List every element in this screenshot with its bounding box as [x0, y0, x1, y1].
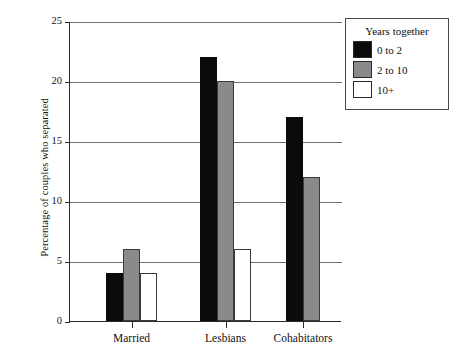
legend-swatch-2-to-10	[353, 61, 372, 78]
y-tick-mark	[65, 202, 70, 203]
x-tick-mark	[132, 322, 133, 328]
y-tick-label: 25	[2, 15, 62, 26]
bar	[106, 273, 123, 321]
bar	[303, 177, 320, 321]
bar	[200, 57, 217, 321]
legend-label-0-to-2: 0 to 2	[377, 44, 402, 56]
legend-title: Years together	[353, 25, 441, 37]
y-tick-mark	[65, 322, 70, 323]
y-tick-mark	[65, 22, 70, 23]
y-tick-label: 15	[2, 135, 62, 146]
legend-item: 2 to 10	[353, 61, 441, 78]
legend-item: 10+	[353, 81, 441, 98]
x-tick-label: Cohabitators	[233, 332, 373, 344]
bar	[140, 273, 157, 321]
legend-swatch-0-to-2	[353, 41, 372, 58]
bar	[234, 249, 251, 321]
chart-legend: Years together 0 to 2 2 to 10 10+	[345, 18, 449, 110]
y-tick-mark	[65, 262, 70, 263]
y-tick-label: 5	[2, 255, 62, 266]
legend-label-2-to-10: 2 to 10	[377, 64, 408, 76]
legend-label-10-plus: 10+	[377, 84, 394, 96]
y-tick-mark	[65, 142, 70, 143]
bar	[286, 117, 303, 321]
bar	[123, 249, 140, 321]
bar-chart-figure: Percentage of couples who separated 0510…	[0, 0, 457, 360]
y-tick-mark	[65, 82, 70, 83]
bar	[217, 81, 234, 321]
y-tick-label: 10	[2, 195, 62, 206]
y-tick-label: 20	[2, 75, 62, 86]
x-tick-mark	[303, 322, 304, 328]
gridline	[70, 22, 342, 23]
x-tick-mark	[226, 322, 227, 328]
y-tick-label: 0	[2, 315, 62, 326]
legend-item: 0 to 2	[353, 41, 441, 58]
legend-swatch-10-plus	[353, 81, 372, 98]
plot-area: 0510152025MarriedLesbiansCohabitators	[69, 22, 341, 322]
